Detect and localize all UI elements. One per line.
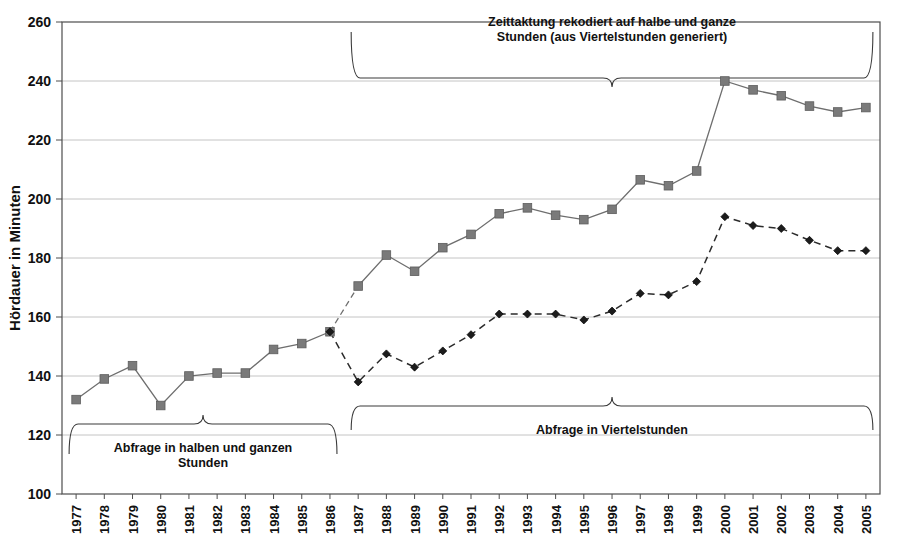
x-tick-label-2003: 2003 [802,505,817,534]
x-tick-label-1989: 1989 [408,505,423,534]
y-tick-label-240: 240 [28,73,52,89]
x-tick-label-2002: 2002 [774,505,789,534]
chart-container: 100120140160180200220240260 197719781979… [0,0,900,548]
x-tick-label-1981: 1981 [182,505,197,534]
y-tick-label-140: 140 [28,368,52,384]
y-axis-title-text: Hördauer in Minuten [6,185,23,331]
data-point-1-2001 [749,222,757,230]
x-tick-label-1977: 1977 [69,505,84,534]
data-point-0-1999 [692,167,701,176]
data-point-1-2000 [721,213,729,221]
annotation-top-brace-line2: Stunden (aus Viertelstunden generiert) [497,30,727,44]
data-point-0-1982 [213,369,222,378]
series-line-1 [330,217,866,382]
data-point-0-2001 [749,86,758,95]
data-point-0-1979 [128,361,137,370]
x-tick-label-2004: 2004 [831,504,846,534]
data-point-0-1991 [467,230,476,239]
x-tick-label-1991: 1991 [464,505,479,534]
x-tick-label-1978: 1978 [97,505,112,534]
x-tick-label-1984: 1984 [267,504,282,534]
data-point-1-1998 [664,291,672,299]
data-point-0-1996 [608,205,617,214]
x-axis-ticks: 1977197819791980198119821983198419851986… [69,494,874,534]
annotation-right-brace-line1: Abfrage in Viertelstunden [536,423,688,437]
data-point-0-1992 [495,209,504,218]
data-point-0-1989 [410,267,419,276]
data-point-0-1981 [185,372,194,381]
y-tick-label-160: 160 [28,309,52,325]
annotation-labels: Zeittaktung rekodiert auf halbe und ganz… [114,15,736,470]
gridlines-group [62,81,880,435]
annotation-left-brace-line2: Stunden [178,456,228,470]
data-point-0-1994 [551,211,560,220]
annotation-top-brace-line1: Zeittaktung rekodiert auf halbe und ganz… [488,15,736,29]
x-tick-label-1983: 1983 [238,505,253,534]
data-point-0-2002 [777,91,786,100]
data-point-0-1988 [382,251,391,260]
x-tick-label-1992: 1992 [492,505,507,534]
y-tick-label-260: 260 [28,14,52,30]
data-point-0-1990 [438,243,447,252]
data-point-1-1989 [411,363,419,371]
data-point-1-2005 [862,247,870,255]
x-tick-label-2005: 2005 [859,505,874,534]
data-point-0-1995 [580,215,589,224]
y-tick-label-180: 180 [28,250,52,266]
data-point-0-1977 [72,395,81,404]
x-tick-label-1996: 1996 [605,505,620,534]
data-point-1-2004 [834,247,842,255]
data-point-0-2003 [805,102,814,111]
x-tick-label-1979: 1979 [126,505,141,534]
data-point-0-1993 [523,204,532,213]
y-axis-ticks: 100120140160180200220240260 [28,14,62,502]
x-tick-label-1995: 1995 [577,505,592,534]
data-point-1-1988 [382,350,390,358]
x-tick-label-1982: 1982 [210,505,225,534]
x-tick-label-1997: 1997 [633,505,648,534]
annotation-left-brace-line1: Abfrage in halben und ganzen [114,441,292,455]
data-point-0-1985 [297,339,306,348]
series-line-0-bridge [330,286,358,332]
x-tick-label-2001: 2001 [746,505,761,534]
x-tick-label-1999: 1999 [690,505,705,534]
x-tick-label-1988: 1988 [379,505,394,534]
x-tick-label-1990: 1990 [436,505,451,534]
series-line-0-b [358,81,866,286]
x-tick-label-2000: 2000 [718,505,733,534]
y-axis-title: Hördauer in Minuten [6,185,23,331]
data-point-1-1997 [636,289,644,297]
data-point-0-2000 [721,77,730,86]
data-point-0-2005 [862,103,871,112]
data-point-1-2002 [777,225,785,233]
x-tick-label-1980: 1980 [154,505,169,534]
series-markers [72,77,870,410]
data-point-0-1987 [354,282,363,291]
data-point-0-1984 [269,345,278,354]
series-line-0-a [76,332,330,406]
data-point-0-1998 [664,181,673,190]
data-point-0-1983 [241,369,250,378]
data-point-0-1978 [100,375,109,384]
y-tick-label-100: 100 [28,486,52,502]
x-tick-label-1985: 1985 [295,505,310,534]
series-lines [76,81,866,406]
data-point-1-1990 [439,347,447,355]
x-tick-label-1998: 1998 [661,505,676,534]
x-tick-label-1986: 1986 [323,505,338,534]
chart-svg: 100120140160180200220240260 197719781979… [0,0,900,548]
data-point-1-1996 [608,307,616,315]
data-point-0-1980 [156,401,165,410]
data-point-0-2004 [833,108,842,117]
data-point-0-1997 [636,176,645,185]
data-point-1-1999 [693,278,701,286]
y-tick-label-200: 200 [28,191,52,207]
x-tick-label-1987: 1987 [351,505,366,534]
y-tick-label-120: 120 [28,427,52,443]
annotation-braces [69,32,873,454]
x-tick-label-1994: 1994 [549,504,564,534]
y-tick-label-220: 220 [28,132,52,148]
data-point-1-2003 [805,236,813,244]
x-tick-label-1993: 1993 [520,505,535,534]
